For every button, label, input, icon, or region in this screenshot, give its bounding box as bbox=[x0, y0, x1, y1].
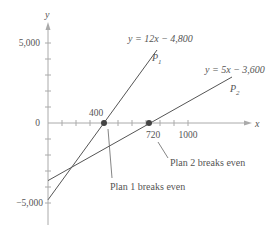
plan1-break-even-point bbox=[101, 120, 107, 126]
p2-equation: y = 5x − 3,600 bbox=[204, 64, 265, 75]
p1-equation: y = 12x − 4,800 bbox=[127, 33, 193, 44]
x-axis-arrow-icon bbox=[244, 121, 252, 126]
x-tick-label-400: 400 bbox=[89, 108, 104, 118]
break-even-chart: y x 5,000 0 −5,000 400 720 1000 y = 12x … bbox=[0, 0, 275, 239]
x-axis-label: x bbox=[254, 118, 260, 129]
plan2-annotation: Plan 2 breaks even bbox=[170, 157, 245, 168]
y-axis-label: y bbox=[44, 9, 50, 20]
plan2-pointer-line bbox=[158, 142, 168, 158]
y-tick-label-neg5000: −5,000 bbox=[16, 198, 43, 208]
y-tick-label-5000: 5,000 bbox=[19, 38, 41, 48]
y-tick-label-0: 0 bbox=[35, 118, 40, 128]
plan1-annotation: Plan 1 breaks even bbox=[110, 181, 185, 192]
plan2-break-even-point bbox=[146, 120, 152, 126]
x-tick-label-1000: 1000 bbox=[179, 130, 198, 140]
x-tick-label-720: 720 bbox=[146, 130, 161, 140]
p1-label: P1 bbox=[151, 52, 162, 66]
plan1-pointer-line bbox=[108, 129, 112, 178]
y-axis-arrow-icon bbox=[46, 22, 51, 30]
p2-label: P2 bbox=[229, 83, 240, 97]
